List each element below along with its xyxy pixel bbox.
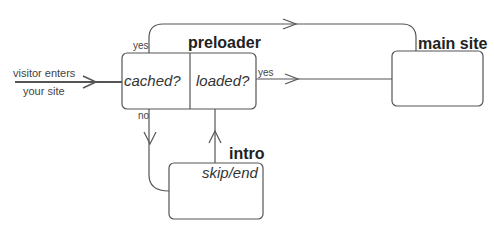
intro-title: intro (229, 145, 265, 163)
intro-subtitle: skip/end (202, 164, 258, 181)
cached-yes-label: yes (133, 40, 149, 51)
cached-no-arrowhead (144, 132, 156, 144)
main-site-box (392, 51, 483, 106)
entry-label-line1: visitor enters (13, 67, 75, 79)
cached-no-edge (149, 109, 169, 191)
preloader-title: preloader (188, 34, 261, 52)
main-site-title: main site (418, 35, 487, 53)
preloader-cached-cell: cached? (124, 72, 181, 89)
preloader-loaded-cell: loaded? (196, 72, 249, 89)
loaded-yes-label: yes (258, 67, 274, 78)
cached-no-label: no (138, 110, 149, 121)
entry-label-line2: your site (23, 85, 65, 97)
